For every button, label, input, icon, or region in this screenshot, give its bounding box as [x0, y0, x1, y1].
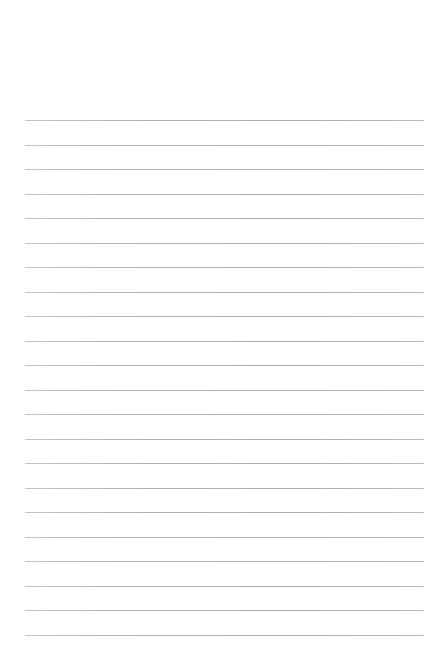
ruled-line: [25, 390, 424, 391]
ruled-line: [25, 341, 424, 342]
ruled-line: [25, 316, 424, 317]
ruled-line: [25, 414, 424, 415]
ruled-line: [25, 169, 424, 170]
ruled-line: [25, 120, 424, 121]
ruled-line: [25, 365, 424, 366]
ruled-line: [25, 145, 424, 146]
ruled-line: [25, 586, 424, 587]
ruled-line: [25, 194, 424, 195]
ruled-line: [25, 488, 424, 489]
ruled-line: [25, 610, 424, 611]
ruled-line: [25, 635, 424, 636]
ruled-line: [25, 218, 424, 219]
ruled-line: [25, 463, 424, 464]
ruled-line: [25, 512, 424, 513]
ruled-line: [25, 537, 424, 538]
ruled-line: [25, 243, 424, 244]
lined-paper-page: [0, 0, 444, 665]
ruled-line: [25, 439, 424, 440]
ruled-line: [25, 292, 424, 293]
ruled-line: [25, 561, 424, 562]
ruled-line: [25, 267, 424, 268]
